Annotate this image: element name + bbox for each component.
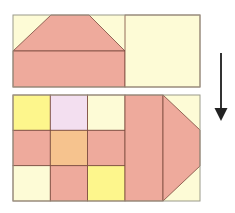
patch-r3c2 xyxy=(50,166,87,201)
quilt-diagram xyxy=(0,0,235,213)
patch-r2c1 xyxy=(13,130,50,165)
down-arrow-icon xyxy=(215,53,228,121)
base-rectangle xyxy=(13,51,125,87)
patch-r3c1 xyxy=(13,166,50,201)
bottom-unit xyxy=(13,95,200,201)
patch-r1c3 xyxy=(88,95,125,130)
top-unit xyxy=(13,15,200,87)
patch-r2c3 xyxy=(88,130,125,165)
nine-patch xyxy=(13,95,125,201)
salmon-strip xyxy=(125,95,163,201)
plain-square xyxy=(125,15,200,87)
patch-r2c2 xyxy=(50,130,87,165)
patch-r3c3 xyxy=(88,166,125,201)
patch-r1c2 xyxy=(50,95,87,130)
patch-r1c1 xyxy=(13,95,50,130)
